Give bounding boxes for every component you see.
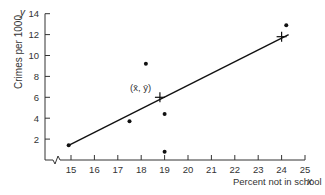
x-tick-label: 23: [253, 164, 264, 175]
x-tick-label: 24: [276, 164, 287, 175]
axes: [45, 14, 305, 164]
data-point: [128, 119, 132, 123]
x-tick-label: 21: [206, 164, 217, 175]
x-tick-label: 20: [183, 164, 194, 175]
x-tick-label: 22: [230, 164, 241, 175]
mean-annotation: (x̄, ȳ): [130, 82, 151, 93]
data-point: [163, 150, 167, 154]
y-axis-variable: y: [19, 7, 26, 18]
y-tick-label: 2: [34, 134, 39, 145]
data-point: [284, 23, 288, 27]
regression-line: [69, 35, 289, 146]
scatter-chart: 24681012141516171819202122232425 Crimes …: [0, 0, 325, 195]
x-axis-line-with-break: [45, 156, 305, 164]
y-axis-label: Crimes per 1000: [13, 15, 24, 89]
x-tick-label: 25: [300, 164, 311, 175]
x-tick-label: 18: [136, 164, 147, 175]
y-tick-label: 10: [28, 50, 39, 61]
ticks: 24681012141516171819202122232425: [28, 8, 310, 175]
y-tick-label: 8: [34, 71, 39, 82]
data-series: [67, 23, 289, 153]
x-tick-label: 15: [66, 164, 77, 175]
x-tick-label: 19: [159, 164, 170, 175]
y-tick-label: 12: [28, 29, 39, 40]
data-point: [144, 62, 148, 66]
y-tick-label: 14: [28, 8, 39, 19]
x-axis-variable: x: [306, 176, 313, 187]
y-tick-label: 6: [34, 92, 39, 103]
data-point: [67, 143, 71, 147]
data-point: [163, 112, 167, 116]
x-tick-label: 17: [113, 164, 124, 175]
x-tick-label: 16: [89, 164, 100, 175]
y-tick-label: 4: [34, 113, 39, 124]
